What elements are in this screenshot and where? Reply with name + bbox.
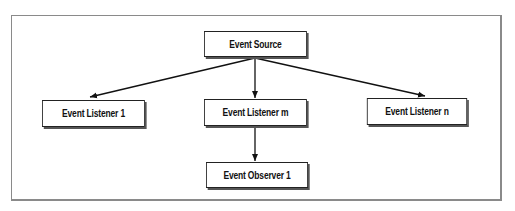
node-label: Event Listener n <box>385 106 448 117</box>
node-label: Event Observer 1 <box>223 170 290 181</box>
node-label: Event Listener m <box>223 107 289 118</box>
edge-source-to-listenern <box>255 58 425 96</box>
node-label: Event Listener 1 <box>62 108 125 119</box>
node-event-observer-1: Event Observer 1 <box>206 162 308 188</box>
node-event-listener-n: Event Listener n <box>367 98 467 125</box>
edge-source-to-listener1 <box>90 58 255 97</box>
node-label: Event Source <box>229 39 281 50</box>
node-event-listener-1: Event Listener 1 <box>42 100 145 127</box>
node-event-source: Event Source <box>204 31 307 57</box>
node-event-listener-m: Event Listener m <box>204 99 307 126</box>
